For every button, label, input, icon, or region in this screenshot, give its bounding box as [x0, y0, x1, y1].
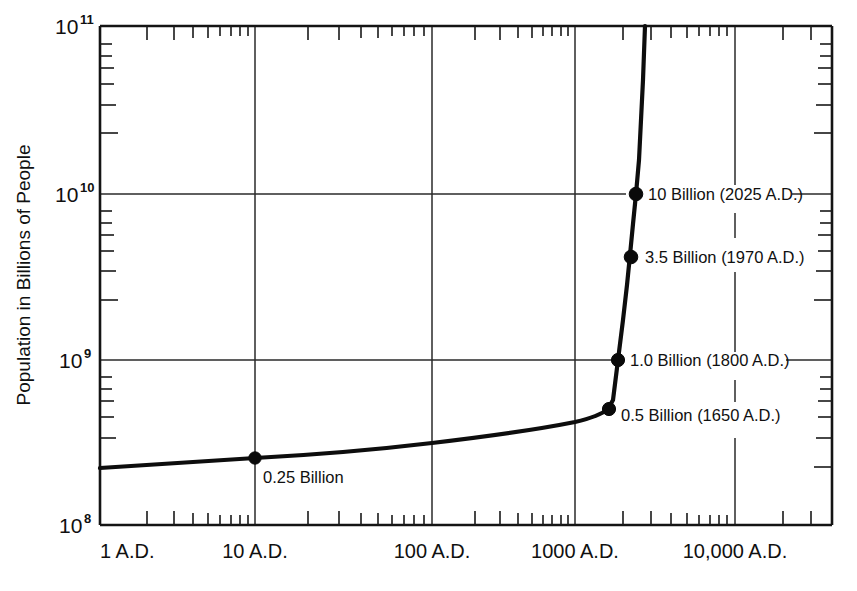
annotation-0-5-billion: 0.5 Billion (1650 A.D.) — [621, 406, 781, 424]
svg-text:9: 9 — [84, 346, 91, 361]
annotation-0-25-billion: 0.25 Billion — [263, 468, 344, 486]
marker-0-5-billion — [602, 402, 615, 415]
svg-text:11: 11 — [80, 12, 94, 27]
svg-text:10: 10 — [55, 183, 78, 206]
marker-3-5-billion — [624, 250, 638, 264]
chart-canvas: 10 Billion (2025 A.D.) 3.5 Billion (1970… — [0, 0, 857, 591]
marker-10-billion — [629, 187, 643, 201]
svg-text:10: 10 — [80, 180, 94, 195]
annotation-1-0-billion: 1.0 Billion (1800 A.D.) — [630, 351, 790, 369]
marker-0-25-billion — [249, 452, 261, 464]
marker-1-0-billion — [611, 353, 624, 366]
annotation-10-billion: 10 Billion (2025 A.D.) — [648, 185, 803, 203]
population-growth-chart: 10 Billion (2025 A.D.) 3.5 Billion (1970… — [0, 0, 857, 591]
x-tick-label-1ad: 1 A.D. — [100, 540, 154, 562]
y-axis-label: Population in Billions of People — [13, 145, 34, 406]
annotation-3-5-billion: 3.5 Billion (1970 A.D.) — [645, 248, 805, 266]
chart-background — [0, 0, 857, 591]
svg-text:10: 10 — [59, 514, 82, 537]
svg-text:10: 10 — [59, 349, 82, 372]
x-tick-label-1000ad: 1000 A.D. — [531, 540, 619, 562]
x-tick-label-100ad: 100 A.D. — [394, 540, 471, 562]
svg-text:8: 8 — [84, 511, 91, 526]
x-tick-label-10000ad: 10,000 A.D. — [683, 540, 788, 562]
svg-text:10: 10 — [55, 15, 78, 38]
x-tick-label-10ad: 10 A.D. — [222, 540, 288, 562]
